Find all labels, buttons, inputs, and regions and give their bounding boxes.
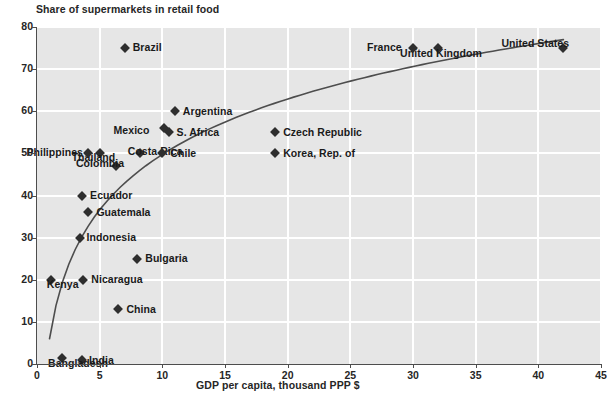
- y-axis-ticks: 01020304050607080: [0, 27, 33, 364]
- chart-figure: Share of supermarkets in retail food Bra…: [0, 0, 616, 408]
- y-tick-mark: [32, 364, 36, 365]
- x-tick-label: 35: [470, 369, 482, 381]
- y-tick-mark: [32, 196, 36, 197]
- x-tick-mark: [288, 364, 289, 368]
- x-tick-mark: [350, 364, 351, 368]
- plot-area: BrazilUnited KingdomFranceUnited StatesA…: [37, 27, 601, 364]
- data-point-label: France: [367, 41, 402, 53]
- y-tick-label: 10: [3, 315, 33, 327]
- data-point-marker: [270, 148, 280, 158]
- gridline-horizontal: [37, 110, 601, 112]
- data-point-label: Guatemala: [96, 206, 150, 218]
- data-point-marker: [114, 304, 124, 314]
- y-tick-label: 70: [3, 62, 33, 74]
- data-point-label: Philippines: [26, 146, 83, 158]
- data-point-label: Korea, Rep. of: [283, 147, 355, 159]
- x-tick-mark: [538, 364, 539, 368]
- data-point-label: United States: [501, 37, 569, 49]
- y-tick-label: 30: [3, 231, 33, 243]
- data-point-label: Nicaragua: [91, 273, 142, 285]
- y-tick-label: 40: [3, 189, 33, 201]
- y-tick-label: 50: [3, 146, 33, 158]
- data-point-label: Chile: [170, 147, 196, 159]
- data-point-marker: [132, 254, 142, 264]
- data-point-label: S. Africa: [177, 126, 220, 138]
- data-point-label: Kenya: [47, 278, 79, 290]
- x-tick-label: 30: [407, 369, 419, 381]
- x-tick-mark: [225, 364, 226, 368]
- data-point-label: Colombia: [76, 157, 124, 169]
- y-tick-mark: [32, 27, 36, 28]
- y-tick-mark: [32, 153, 36, 154]
- x-tick-label: 45: [595, 369, 607, 381]
- gridline-horizontal: [37, 26, 601, 28]
- y-tick-mark: [32, 280, 36, 281]
- y-axis-line: [36, 27, 37, 365]
- data-point-marker: [83, 207, 93, 217]
- y-tick-mark: [32, 69, 36, 70]
- data-point-label: Mexico: [114, 124, 150, 136]
- data-point-marker: [170, 106, 180, 116]
- y-tick-label: 80: [3, 20, 33, 32]
- x-tick-mark: [476, 364, 477, 368]
- y-tick-mark: [32, 111, 36, 112]
- y-tick-label: 60: [3, 104, 33, 116]
- data-point-marker: [78, 275, 88, 285]
- x-tick-mark: [601, 364, 602, 368]
- data-point-label: Argentina: [183, 105, 232, 117]
- data-point-label: Indonesia: [87, 231, 136, 243]
- gridline-horizontal: [37, 68, 601, 70]
- data-point-marker: [120, 43, 130, 53]
- x-tick-mark: [413, 364, 414, 368]
- data-point-label: Czech Republic: [283, 126, 362, 138]
- y-tick-mark: [32, 238, 36, 239]
- y-tick-label: 0: [3, 357, 33, 369]
- chart-title: Share of supermarkets in retail food: [36, 3, 219, 15]
- x-tick-label: 40: [532, 369, 544, 381]
- x-tick-label: 10: [156, 369, 168, 381]
- x-tick-mark: [162, 364, 163, 368]
- data-point-marker: [75, 233, 85, 243]
- gridline-horizontal: [37, 321, 601, 323]
- x-tick-mark: [100, 364, 101, 368]
- y-tick-mark: [32, 322, 36, 323]
- x-tick-label: 0: [34, 369, 40, 381]
- data-point-label: Bulgaria: [145, 252, 187, 264]
- data-point-label: Ecuador: [90, 189, 132, 201]
- x-tick-mark: [37, 364, 38, 368]
- data-point-label: Brazil: [133, 41, 162, 53]
- x-axis-label: GDP per capita, thousand PPP $: [196, 379, 360, 391]
- y-tick-label: 20: [3, 273, 33, 285]
- data-point-marker: [77, 191, 87, 201]
- data-point-label: China: [126, 303, 155, 315]
- x-tick-label: 5: [97, 369, 103, 381]
- data-point-marker: [270, 127, 280, 137]
